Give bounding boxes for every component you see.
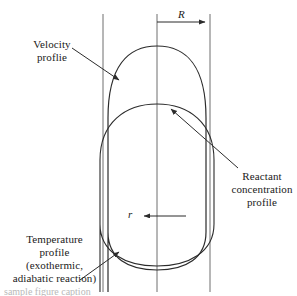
radius-R-label: R xyxy=(178,8,185,20)
velocity-profile-label: Velocity proflie xyxy=(22,38,82,64)
radius-r-label: r xyxy=(128,208,132,220)
temperature-profile-label: Temperature profile (exothermic, adiabat… xyxy=(2,233,107,285)
reactant-leader-arrow xyxy=(171,109,238,168)
reactor-profile-figure: Velocity proflie Reactant concentration … xyxy=(0,0,297,296)
reactant-concentration-profile-label: Reactant concentration profile xyxy=(228,170,296,209)
figure-caption-cutoff: sample figure caption xyxy=(4,286,144,296)
